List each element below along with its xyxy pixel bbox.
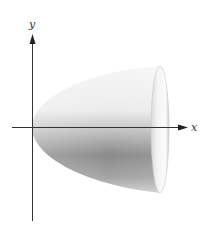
paraboloid-cap xyxy=(151,66,169,193)
y-axis-label: y xyxy=(28,18,36,31)
paraboloid-surface xyxy=(32,66,160,193)
x-axis-label: x xyxy=(191,121,198,134)
paraboloid-diagram: y x xyxy=(0,0,204,235)
x-axis-arrowhead-icon xyxy=(178,125,188,131)
y-axis-arrowhead-icon xyxy=(30,34,36,44)
